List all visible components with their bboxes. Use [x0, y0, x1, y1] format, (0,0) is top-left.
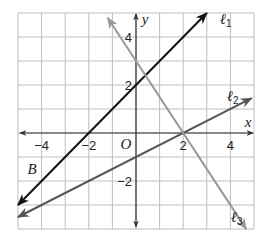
point-label-b: B — [28, 161, 37, 177]
coordinate-graph: −4−22442−2Oxyℓ1ℓ2ℓ3B — [0, 0, 263, 242]
x-tick-label: 4 — [227, 138, 234, 153]
line-l2 — [18, 98, 252, 217]
y-tick-label: −2 — [117, 174, 132, 189]
axes — [20, 14, 253, 227]
line-label-l3: ℓ3 — [231, 209, 243, 227]
lines — [18, 13, 252, 229]
y-tick-label: 4 — [125, 30, 132, 45]
line-l3 — [108, 18, 247, 229]
origin-label: O — [121, 136, 132, 152]
y-tick-label: 2 — [125, 78, 132, 93]
x-tick-label: −4 — [34, 138, 49, 153]
x-tick-label: 2 — [180, 138, 187, 153]
x-tick-label: −2 — [81, 138, 96, 153]
line-label-l2: ℓ2 — [227, 88, 239, 106]
y-axis-label: y — [140, 11, 149, 27]
x-axis-label: x — [244, 114, 252, 130]
